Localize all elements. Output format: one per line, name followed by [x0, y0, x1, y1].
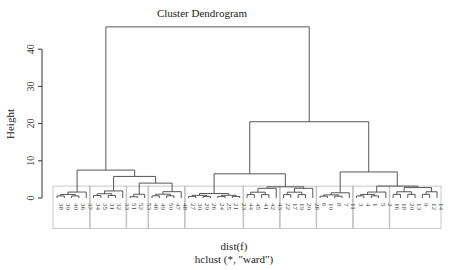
leaf-label: 1: [371, 203, 379, 207]
leaf-label: 31: [108, 203, 116, 211]
leaf-label: 21: [232, 203, 240, 211]
y-tick-label: 10: [25, 156, 36, 166]
leaf-label: 33: [123, 203, 131, 211]
leaf-label: 24: [218, 203, 226, 211]
leaf-label: 52: [137, 203, 145, 211]
leaf-label: 10: [327, 203, 335, 211]
subtitle: hclust (*, "ward"): [195, 253, 274, 266]
leaf-label: 44: [247, 203, 255, 211]
leaf-label: 41: [262, 203, 270, 211]
leaf-label: 5: [379, 203, 387, 207]
leaf-label: 28: [313, 203, 321, 211]
leaf-label: 26: [210, 203, 218, 211]
leaf-label: 39: [64, 203, 72, 211]
leaf-label: 38: [57, 203, 65, 211]
leaf-label: 7: [342, 203, 350, 207]
leaf-label: 37: [86, 203, 94, 211]
leaf-label: 40: [72, 203, 80, 211]
leaf-label: 32: [115, 203, 123, 211]
leaf-label: 20: [408, 203, 416, 211]
leaf-label: 9: [422, 203, 430, 207]
leaf-label: 3: [357, 203, 365, 207]
leaf-label: 14: [437, 203, 445, 211]
leaf-label: 53: [145, 203, 153, 211]
leaf-label: 45: [254, 203, 262, 211]
leaf-label: 46: [152, 203, 160, 211]
leaf-label: 4: [364, 203, 372, 207]
leaf-label: 36: [79, 203, 87, 211]
y-axis-label: Height: [4, 109, 16, 139]
leaf-label: 22: [284, 203, 292, 211]
leaf-labels: 3839403637343531323351525346495047482730…: [57, 203, 445, 211]
leaf-label: 13: [415, 203, 423, 211]
leaf-label: 16: [393, 203, 401, 211]
leaf-label: 50: [167, 203, 175, 211]
leaf-label: 30: [196, 203, 204, 211]
y-tick-label: 40: [25, 44, 36, 54]
leaf-label: 35: [101, 203, 109, 211]
leaf-label: 42: [269, 203, 277, 211]
leaf-label: 12: [430, 203, 438, 211]
leaf-label: 47: [174, 203, 182, 211]
dendrogram-tree: [57, 27, 437, 198]
leaf-label: 51: [130, 203, 138, 211]
leaf-label: 23: [240, 203, 248, 211]
y-tick-label: 0: [25, 196, 36, 201]
leaf-label: 19: [298, 203, 306, 211]
leaf-label: 34: [94, 203, 102, 211]
leaf-label: 18: [400, 203, 408, 211]
x-axis-label: dist(f): [221, 240, 248, 253]
leaf-label: 25: [225, 203, 233, 211]
leaf-label: 29: [203, 203, 211, 211]
dendrogram-chart: Cluster Dendrogram Height dist(f) hclust…: [0, 0, 450, 270]
leaf-label: 20: [305, 203, 313, 211]
leaf-label: 8: [335, 203, 343, 207]
chart-title: Cluster Dendrogram: [157, 7, 248, 19]
leaf-label: 27: [189, 203, 197, 211]
leaf-label: 49: [159, 203, 167, 211]
y-tick-label: 20: [25, 119, 36, 129]
leaf-label: 17: [291, 203, 299, 211]
leaf-label: 6: [320, 203, 328, 207]
y-tick-label: 30: [25, 81, 36, 91]
y-axis: 010203040: [25, 44, 42, 200]
leaf-label: 48: [181, 203, 189, 211]
leaf-label: 2: [386, 203, 394, 207]
leaf-label: 43: [276, 203, 284, 211]
leaf-label: 11: [349, 203, 357, 210]
